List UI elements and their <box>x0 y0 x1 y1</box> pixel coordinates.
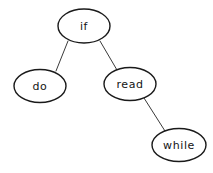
node-do-ellipse[interactable] <box>14 70 66 103</box>
node-if[interactable]: if <box>58 9 110 43</box>
node-do[interactable]: do <box>14 70 66 103</box>
node-if-ellipse[interactable] <box>58 9 110 43</box>
node-read-ellipse[interactable] <box>104 68 156 101</box>
edge-if-read <box>100 41 117 70</box>
tree-canvas: if do read while <box>0 0 213 173</box>
edge-read-while <box>144 98 165 131</box>
node-while-ellipse[interactable] <box>152 129 206 162</box>
node-read[interactable]: read <box>104 68 156 101</box>
edge-if-do <box>56 41 68 71</box>
node-while[interactable]: while <box>152 129 206 162</box>
binary-tree-diagram: if do read while <box>0 0 213 173</box>
